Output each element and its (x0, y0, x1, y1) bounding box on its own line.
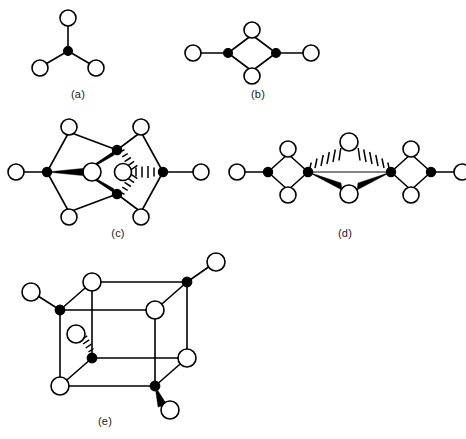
open-circle-vertex-back-bridge (340, 133, 358, 151)
open-circle-vertex (454, 164, 466, 180)
hash-bond-d-backbridge-right (358, 148, 389, 170)
bond-c-tl-tc (69, 132, 117, 150)
filled-circle-vertex (55, 305, 65, 315)
open-circle-vertex (133, 119, 149, 135)
panel-a-diagram (0, 0, 170, 90)
panel-d-caption: (d) (325, 227, 365, 239)
panel-b-diagram (175, 0, 355, 90)
open-circle-vertex (88, 60, 104, 76)
open-circle-vertex (51, 377, 69, 395)
panel-c-caption: (c) (98, 227, 138, 239)
panel-c-diagram (0, 110, 233, 225)
open-circle-vertex (303, 45, 319, 61)
hash-bond-d-backbridge-left (310, 148, 341, 170)
bond-c-tr-rm (141, 132, 163, 172)
open-circle-vertex (60, 10, 76, 26)
open-circle-vertex (280, 141, 296, 157)
panel-e-diagram (0, 258, 233, 408)
filled-circle-vertex (263, 167, 272, 176)
bond-c-lm-bl (47, 172, 69, 212)
open-circle-vertex (133, 209, 149, 225)
filled-circle-vertex (112, 189, 121, 198)
panel-b-caption: (b) (238, 88, 278, 100)
bond-c-bl-bc (69, 194, 117, 212)
filled-circle-vertex (303, 167, 312, 176)
panel-a-caption: (a) (58, 88, 98, 100)
open-circle-vertex (8, 164, 24, 180)
open-circle-vertex-back-center (115, 164, 132, 181)
filled-circle-vertex (112, 145, 121, 154)
open-circle-vertex (61, 209, 77, 225)
open-circle-vertex (244, 68, 260, 84)
open-circle-vertex-terminal-left (22, 283, 40, 301)
open-circle-vertex-front-center (83, 163, 101, 181)
panel-e-caption: (e) (85, 415, 125, 427)
open-circle-vertex (61, 119, 77, 135)
open-circle-vertex-front-bridge (340, 185, 358, 203)
filled-circle-vertex (224, 49, 233, 58)
open-circle-vertex (280, 187, 296, 203)
filled-circle-vertex (158, 167, 167, 176)
filled-circle-vertex (42, 167, 51, 176)
filled-circle-vertex (386, 167, 395, 176)
open-circle-vertex (229, 164, 245, 180)
open-circle-vertex-inner-left (67, 325, 85, 343)
open-circle-vertex (403, 141, 419, 157)
open-circle-vertex (146, 301, 164, 319)
bond-c-br-rm (141, 172, 163, 212)
wedge-bond-d-frontbridge-right (357, 172, 391, 190)
wedge-bond-d-frontbridge-left (308, 172, 342, 190)
filled-circle-vertex (87, 353, 97, 363)
open-circle-vertex (185, 45, 201, 61)
open-circle-vertex (32, 60, 48, 76)
open-circle-vertex-terminal-right (207, 253, 225, 271)
filled-circle-vertex (64, 47, 73, 56)
figure-root: (a) (b) (0, 0, 466, 439)
open-circle-vertex (244, 22, 260, 38)
open-circle-vertex (178, 349, 196, 367)
filled-circle-vertex (426, 167, 435, 176)
open-circle-vertex-terminal-bottom (161, 401, 179, 419)
open-circle-vertex (83, 273, 101, 291)
bond-c-lm-tl (47, 132, 69, 172)
open-circle-vertex (403, 187, 419, 203)
open-circle-vertex (193, 164, 209, 180)
filled-circle-vertex (150, 381, 160, 391)
panel-d-diagram (233, 110, 466, 225)
filled-circle-vertex (272, 49, 281, 58)
filled-circle-vertex (182, 277, 192, 287)
